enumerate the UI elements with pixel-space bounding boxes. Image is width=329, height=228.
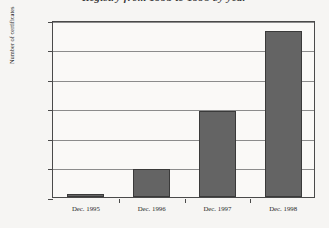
y-axis-tick-mark	[48, 169, 53, 170]
x-axis-tick-label: Dec. 1998	[250, 205, 316, 212]
chart-title: Registry from 1995 to 1998 by year	[0, 0, 329, 3]
x-axis-tick-label: Dec. 1997	[185, 205, 251, 212]
y-axis-tick-mark	[48, 140, 53, 141]
y-axis-tick-mark	[48, 51, 53, 52]
y-axis-tick-mark	[48, 22, 53, 23]
bar	[265, 31, 302, 197]
y-axis-tick-mark	[48, 199, 53, 200]
bar	[133, 169, 170, 197]
bar	[199, 111, 236, 197]
y-axis-title: Number of certificates	[8, 0, 15, 64]
plot-area: 300025002000150010005000Dec. 1995Dec. 19…	[52, 21, 315, 198]
x-axis-tick-mark	[250, 199, 251, 203]
y-axis-tick-mark	[48, 81, 53, 82]
bar	[67, 194, 104, 197]
x-axis-tick-mark	[185, 199, 186, 203]
x-axis-tick-label: Dec. 1996	[119, 205, 185, 212]
x-axis-tick-mark	[119, 199, 120, 203]
y-axis-tick-mark	[48, 110, 53, 111]
gridline	[53, 22, 314, 23]
x-axis-tick-label: Dec. 1995	[53, 205, 119, 212]
